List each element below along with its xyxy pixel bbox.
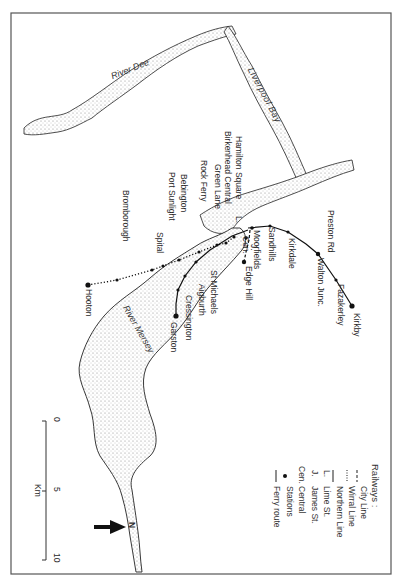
scale-tick-5: 5 bbox=[53, 487, 62, 492]
legend-wirral-line: Wirral Line bbox=[347, 486, 357, 527]
legend-lime-st: Lime St. bbox=[322, 486, 332, 517]
legend-central-symbol: Cen. bbox=[297, 466, 307, 484]
abbrev-central: Cen. bbox=[242, 236, 251, 254]
station-cressington: Cressington bbox=[185, 295, 194, 340]
legend-james-st-symbol: J. bbox=[310, 470, 320, 477]
north-label: N bbox=[128, 522, 137, 528]
station-garston: Garston bbox=[170, 322, 179, 352]
legend-stations: Stations bbox=[285, 486, 295, 517]
river-mersey-water bbox=[79, 228, 246, 572]
legend-james-st: James St. bbox=[310, 486, 320, 524]
station-hooton: Hooton bbox=[85, 289, 94, 316]
station-rock-ferry: Rock Ferry bbox=[200, 160, 209, 202]
station-kirkdale: Kirkdale bbox=[288, 238, 297, 269]
station-st-michaels: St Michaels bbox=[210, 270, 219, 314]
scale-unit: Km bbox=[34, 484, 43, 497]
legend-title: Railways : bbox=[370, 464, 381, 507]
station-bromborough: Bromborough bbox=[122, 190, 131, 242]
station-aigburth: Aigburth bbox=[198, 284, 207, 316]
legend-city-line: City Line bbox=[359, 486, 369, 519]
legend-ferry-route: Ferry route bbox=[272, 486, 282, 528]
station-bebington: Bebington bbox=[180, 174, 189, 212]
legend-station-dot bbox=[283, 474, 287, 478]
river-dee-water bbox=[24, 26, 236, 135]
legend-central: Central bbox=[297, 486, 307, 513]
scale-tick-10: 10 bbox=[53, 553, 62, 562]
station-walton-junc: Walton Junc. bbox=[317, 258, 326, 307]
station-kirkby: Kirkby bbox=[353, 313, 362, 337]
station-spital: Spital bbox=[156, 232, 165, 253]
station-preston-rd: Preston Rd bbox=[327, 210, 336, 253]
abbrev-lime-st: L. bbox=[235, 216, 244, 223]
station-sandhills: Sandhills bbox=[268, 227, 277, 262]
station-fazakerley: Fazakerley bbox=[337, 284, 346, 326]
station-hamilton-square: Hamilton Square bbox=[235, 136, 244, 199]
station-port-sunlight: Port Sunlight bbox=[168, 172, 177, 221]
scale-tick-0: 0 bbox=[53, 417, 62, 422]
station-green-lane: Green Lane bbox=[214, 164, 223, 209]
legend-northern-line: Northern Line bbox=[335, 486, 345, 538]
north-arrow-icon bbox=[94, 520, 126, 534]
legend-lime-st-symbol: L. bbox=[322, 470, 332, 477]
station-birkenhead-central: Birkenhead Central bbox=[224, 131, 233, 204]
station-edge-hill: Edge Hill bbox=[245, 266, 254, 300]
